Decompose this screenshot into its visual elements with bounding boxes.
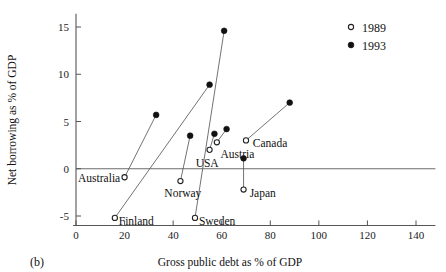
y-tick-label: 15 bbox=[58, 21, 70, 33]
x-tick-label: 40 bbox=[168, 229, 180, 241]
legend-label-1993: 1993 bbox=[362, 39, 386, 53]
x-tick-label: 20 bbox=[119, 229, 131, 241]
tick-labels-group: -5051015020406080100120140 bbox=[58, 21, 425, 241]
point-1993-finland bbox=[207, 82, 213, 88]
point-label-australia: Australia bbox=[78, 172, 120, 184]
legend-label-1989: 1989 bbox=[362, 21, 386, 35]
point-1989-austria bbox=[214, 140, 219, 145]
point-1993-australia bbox=[153, 112, 159, 118]
legend-marker-open-circle bbox=[348, 24, 353, 29]
point-1993-norway bbox=[187, 133, 193, 139]
x-tick-label: 80 bbox=[265, 229, 277, 241]
y-tick-label: 0 bbox=[64, 163, 70, 175]
point-1989-sweden bbox=[192, 215, 197, 220]
connector-canada bbox=[246, 103, 290, 141]
legend-marker-filled-circle bbox=[348, 42, 354, 48]
point-1989-norway bbox=[178, 178, 183, 183]
point-1989-japan bbox=[241, 187, 246, 192]
y-axis-title: Net borrowing as % of GDP bbox=[6, 55, 19, 186]
connector-norway bbox=[180, 136, 190, 181]
x-tick-label: 100 bbox=[311, 229, 328, 241]
scatter-chart-panel-b: -5051015020406080100120140 AustraliaFinl… bbox=[0, 0, 446, 272]
y-tick-label: 5 bbox=[64, 116, 70, 128]
x-tick-label: 120 bbox=[359, 229, 376, 241]
chart-canvas: -5051015020406080100120140 AustraliaFinl… bbox=[0, 0, 446, 272]
connector-australia bbox=[125, 115, 157, 177]
panel-caption: (b) bbox=[30, 255, 44, 269]
y-tick-label: -5 bbox=[60, 210, 70, 222]
point-1989-australia bbox=[122, 175, 127, 180]
point-1989-canada bbox=[243, 138, 248, 143]
x-tick-label: 0 bbox=[73, 229, 79, 241]
point-1993-austria bbox=[224, 126, 230, 132]
point-label-canada: Canada bbox=[253, 137, 287, 149]
tick-marks-group bbox=[76, 27, 416, 225]
point-label-austria: Austria bbox=[221, 148, 255, 160]
point-label-finland: Finland bbox=[119, 215, 154, 227]
point-1989-finland bbox=[112, 215, 117, 220]
point-label-sweden: Sweden bbox=[199, 215, 236, 227]
x-tick-label: 140 bbox=[408, 229, 425, 241]
point-1993-sweden bbox=[221, 28, 227, 34]
legend-group: 19891993 bbox=[348, 21, 386, 53]
point-1993-usa bbox=[212, 131, 218, 137]
point-1993-canada bbox=[287, 100, 293, 106]
point-label-usa: USA bbox=[196, 157, 220, 169]
y-tick-label: 10 bbox=[58, 68, 70, 80]
x-axis-title: Gross public debt as % of GDP bbox=[158, 256, 302, 269]
point-label-japan: Japan bbox=[250, 187, 276, 200]
point-label-norway: Norway bbox=[164, 187, 201, 200]
x-tick-label: 60 bbox=[216, 229, 228, 241]
point-1989-usa bbox=[207, 147, 212, 152]
